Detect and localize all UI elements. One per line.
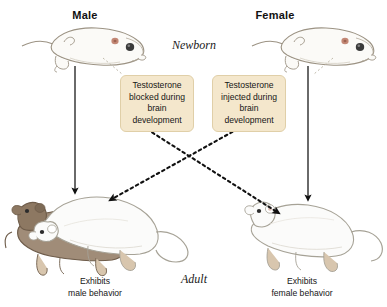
newborn-female-illustration [252, 28, 376, 72]
callout-injected-line2: injected during [216, 92, 282, 104]
newborn-male-illustration [22, 28, 146, 72]
leader-line-male-pup [103, 58, 122, 74]
caption-male-line2: male behavior [33, 288, 157, 300]
callout-blocked-line3: brain development [124, 103, 190, 126]
arrow-cross-to-female-adult [142, 126, 277, 212]
caption-female-line1: Exhibits [240, 276, 364, 288]
caption-female-behavior: Exhibits female behavior [240, 276, 364, 299]
caption-male-behavior: Exhibits male behavior [33, 276, 157, 299]
leader-line-female-pup [314, 58, 333, 74]
sexual-differentiation-diagram: Male Female Newborn Adult [0, 0, 387, 307]
callout-testosterone-injected: Testosterone injected during brain devel… [212, 75, 286, 132]
adult-female-behavior-illustration [245, 202, 383, 271]
column-header-female: Female [230, 9, 320, 21]
callout-blocked-line2: blocked during [124, 92, 190, 104]
stage-label-newborn: Newborn [152, 38, 236, 53]
caption-female-line2: female behavior [240, 288, 364, 300]
column-header-male: Male [40, 9, 130, 21]
stage-label-adult: Adult [152, 272, 236, 287]
stage-label-newborn-text: Newborn [152, 38, 236, 53]
callout-injected-line1: Testosterone [216, 80, 282, 92]
caption-male-line1: Exhibits [33, 276, 157, 288]
arrow-cross-to-male-adult [112, 126, 243, 199]
callout-testosterone-blocked: Testosterone blocked during brain develo… [120, 75, 194, 132]
callout-injected-line3: brain development [216, 103, 282, 126]
callout-blocked-line1: Testosterone [124, 80, 190, 92]
adult-male-behavior-illustration [5, 197, 188, 276]
stage-label-adult-text: Adult [152, 272, 236, 287]
